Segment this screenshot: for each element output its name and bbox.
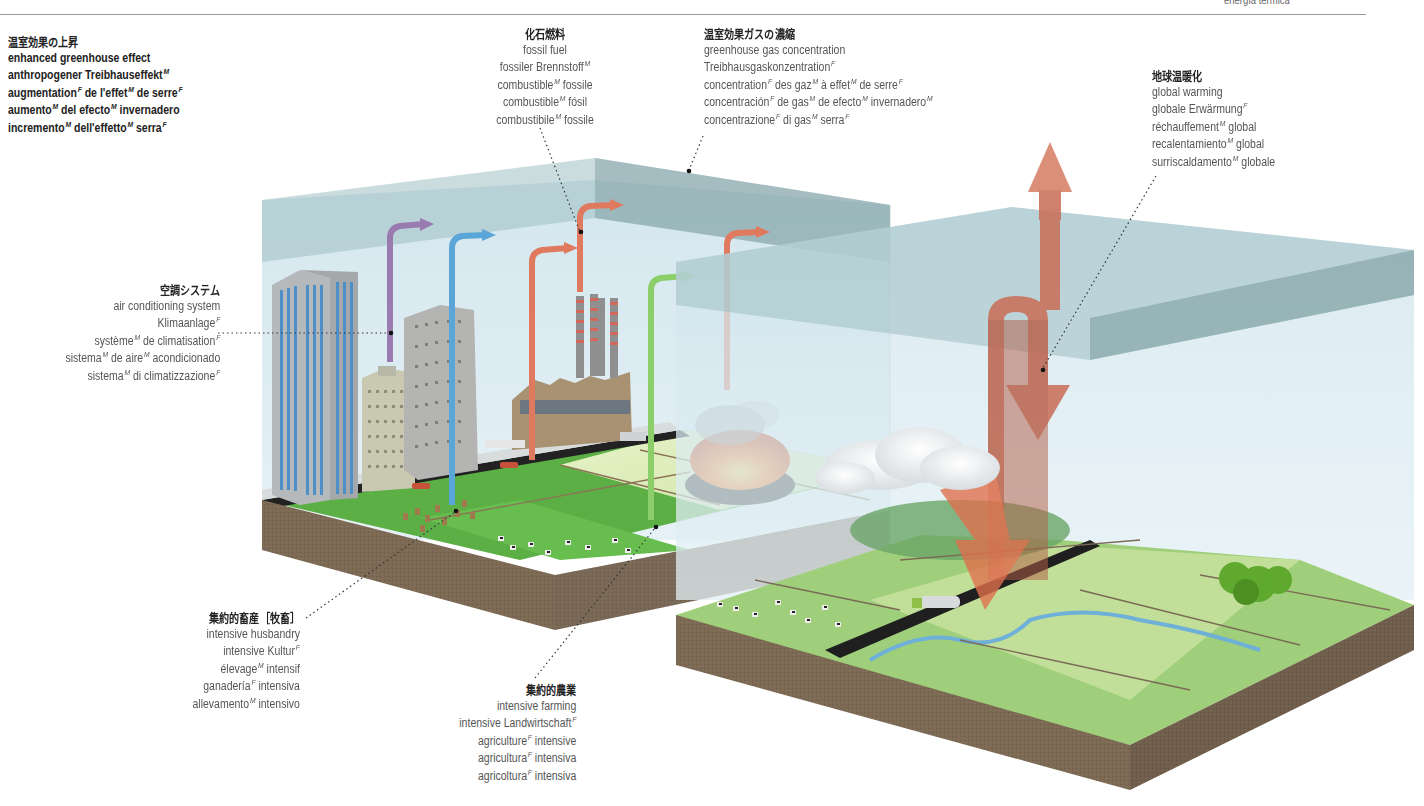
term-japanese: 空調システム bbox=[65, 284, 220, 299]
term-french: agricultureF intensive bbox=[459, 731, 576, 749]
term-japanese: 地球温暖化 bbox=[1152, 70, 1275, 85]
term-spanish: concentraciónF de gasM de efectoM invern… bbox=[704, 92, 933, 110]
term-spanish: recalentamientoM global bbox=[1152, 134, 1275, 152]
term-french: concentrationF des gazM à effetM de serr… bbox=[704, 75, 933, 93]
term-german: KlimaanlageF bbox=[65, 313, 220, 331]
skyscraper-blue bbox=[272, 270, 358, 505]
term-english: global warming bbox=[1152, 85, 1275, 100]
label-fossil-fuel: 化石燃料 fossil fuel fossiler BrennstoffM co… bbox=[482, 28, 608, 128]
term-japanese: 化石燃料 bbox=[482, 28, 608, 43]
term-spanish: aumentoM del efectoM invernadero bbox=[8, 100, 183, 118]
term-french: élevageM intensif bbox=[193, 659, 300, 677]
term-english: intensive farming bbox=[459, 699, 576, 714]
truck bbox=[485, 440, 525, 448]
term-french: combustibleM fossile bbox=[482, 75, 608, 93]
label-intensive-husbandry: 集約的畜産［牧畜］ intensive husbandry intensive … bbox=[193, 612, 300, 712]
term-french: augmentationF de l'effetM de serreF bbox=[8, 83, 183, 101]
term-english: air conditioning system bbox=[65, 299, 220, 314]
term-english: greenhouse gas concentration bbox=[704, 43, 933, 58]
term-german: TreibhausgaskonzentrationF bbox=[704, 57, 933, 75]
car bbox=[500, 462, 518, 468]
term-german: fossiler BrennstoffM bbox=[482, 57, 608, 75]
term-spanish: agriculturaF intensiva bbox=[459, 748, 576, 766]
term-english: enhanced greenhouse effect bbox=[8, 51, 183, 66]
term-english: intensive husbandry bbox=[193, 627, 300, 642]
label-enhanced-greenhouse-effect: 温室効果の上昇 enhanced greenhouse effect anthr… bbox=[8, 36, 183, 136]
term-italian: agricolturaF intensiva bbox=[459, 766, 576, 784]
term-italian: sistemaM di climatizzazioneF bbox=[65, 366, 220, 384]
label-greenhouse-gas-concentration: 温室効果ガスの濃縮 greenhouse gas concentration T… bbox=[704, 28, 933, 128]
label-air-conditioning-system: 空調システム air conditioning system Klimaanla… bbox=[65, 284, 220, 384]
term-italian: allevamentoM intensivo bbox=[193, 694, 300, 712]
term-spanish: combustibleM fósil bbox=[482, 92, 608, 110]
term-japanese: 集約的畜産［牧畜］ bbox=[193, 612, 300, 627]
term-german: anthropogener TreibhauseffektM bbox=[8, 65, 183, 83]
term-italian: incrementoM dell'effettoM serraF bbox=[8, 118, 183, 136]
term-italian: concentrazioneF di gasM serraF bbox=[704, 110, 933, 128]
term-german: globale ErwärmungF bbox=[1152, 99, 1275, 117]
building-grey bbox=[404, 305, 478, 480]
term-french: réchauffementM global bbox=[1152, 117, 1275, 135]
label-intensive-farming: 集約的農業 intensive farming intensive Landwi… bbox=[459, 684, 576, 784]
term-french: systèmeM de climatisationF bbox=[65, 331, 220, 349]
term-german: intensive LandwirtschaftF bbox=[459, 713, 576, 731]
term-italian: combustibileM fossile bbox=[482, 110, 608, 128]
label-global-warming: 地球温暖化 global warming globale ErwärmungF … bbox=[1152, 70, 1275, 170]
term-spanish: sistemaM de aireM acondicionado bbox=[65, 348, 220, 366]
term-japanese: 集約的農業 bbox=[459, 684, 576, 699]
tanker-truck bbox=[920, 596, 960, 608]
smokestacks bbox=[576, 294, 618, 378]
term-italian: surriscaldamentoM globale bbox=[1152, 152, 1275, 170]
term-english: fossil fuel bbox=[482, 43, 608, 58]
term-spanish: ganaderíaF intensiva bbox=[193, 676, 300, 694]
term-german: intensive KulturF bbox=[193, 641, 300, 659]
term-japanese: 温室効果の上昇 bbox=[8, 36, 183, 51]
term-japanese: 温室効果ガスの濃縮 bbox=[704, 28, 933, 43]
